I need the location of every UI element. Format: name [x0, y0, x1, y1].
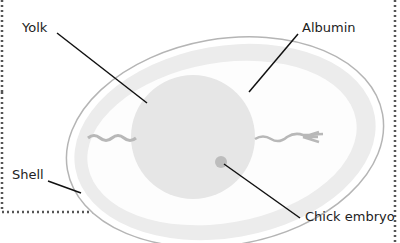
egg-diagram: [0, 0, 400, 243]
label-chick-embryo: Chick embryo: [305, 209, 395, 224]
yolk: [131, 75, 255, 199]
label-albumin: Albumin: [302, 20, 356, 35]
label-shell: Shell: [12, 167, 44, 182]
label-yolk: Yolk: [22, 20, 47, 35]
chick-embryo: [215, 156, 227, 168]
